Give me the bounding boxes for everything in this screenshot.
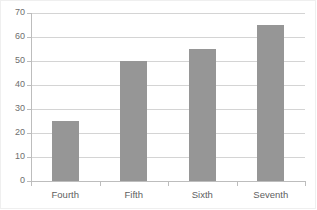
y-axis-tick-label: 60 xyxy=(3,32,25,41)
gridline-70 xyxy=(31,13,305,14)
y-tick-70 xyxy=(27,13,32,14)
y-tick-50 xyxy=(27,61,32,62)
y-tick-10 xyxy=(27,157,32,158)
y-axis-tick-label: 70 xyxy=(3,8,25,17)
bar-fifth xyxy=(120,61,147,181)
y-axis-tick-label: 10 xyxy=(3,152,25,161)
y-axis-tick-label: 0 xyxy=(3,176,25,185)
x-axis-label-sixth: Sixth xyxy=(168,188,237,204)
y-axis-tick-label: 30 xyxy=(3,104,25,113)
bar-chart: 010203040506070 FourthFifthSixthSeventh xyxy=(0,0,317,210)
y-tick-0 xyxy=(27,181,32,182)
y-axis-tick-label: 50 xyxy=(3,56,25,65)
category-tick xyxy=(100,181,101,186)
x-axis-label-seventh: Seventh xyxy=(237,188,306,204)
bar-sixth xyxy=(189,49,216,181)
category-tick xyxy=(305,181,306,186)
x-axis-labels: FourthFifthSixthSeventh xyxy=(31,188,305,204)
plot-area xyxy=(31,13,305,181)
x-axis-label-fourth: Fourth xyxy=(31,188,100,204)
category-tick xyxy=(168,181,169,186)
y-tick-40 xyxy=(27,85,32,86)
bar-fourth xyxy=(52,121,79,181)
bar-seventh xyxy=(257,25,284,181)
y-axis-tick-label: 20 xyxy=(3,128,25,137)
category-tick-marks xyxy=(31,181,305,186)
category-tick xyxy=(237,181,238,186)
y-axis-labels: 010203040506070 xyxy=(0,0,25,210)
y-tick-20 xyxy=(27,133,32,134)
x-axis-label-fifth: Fifth xyxy=(100,188,169,204)
y-axis-tick-label: 40 xyxy=(3,80,25,89)
y-tick-30 xyxy=(27,109,32,110)
y-tick-60 xyxy=(27,37,32,38)
